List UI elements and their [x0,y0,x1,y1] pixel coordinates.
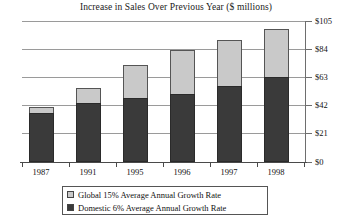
y-tick-mark-105 [305,21,312,22]
bar-series-container [22,21,305,162]
bar-segment-domestic-1987 [29,113,54,162]
x-tick-label-1991: 1991 [66,167,110,177]
legend-item-domestic[interactable]: Domestic 6% Average Annual Growth Rate [67,201,263,214]
x-tick-mark-6 [304,162,305,167]
bar-segment-domestic-1991 [76,103,101,162]
bar-segment-domestic-1998 [264,77,289,162]
y-tick-label-105: $105 [315,16,332,26]
sales-growth-bar-chart: Increase in Sales Over Previous Year ($ … [0,0,352,222]
bar-group-1997[interactable] [217,40,242,162]
bar-group-1991[interactable] [76,88,101,162]
x-tick-label-1995: 1995 [113,167,157,177]
dark-gray-swatch-icon [67,204,74,211]
y-tick-mark-21 [305,133,312,134]
bar-segment-global-1996 [170,50,195,94]
x-tick-label-1987: 1987 [19,167,63,177]
y-axis-line [305,21,306,163]
bar-group-1996[interactable] [170,50,195,162]
y-tick-label-84: $84 [315,44,328,54]
bar-segment-domestic-1995 [123,98,148,162]
y-tick-label-63: $63 [315,72,328,82]
legend-label-domestic: Domestic 6% Average Annual Growth Rate [78,203,226,213]
light-gray-swatch-icon [67,191,74,198]
y-tick-mark-63 [305,77,312,78]
legend-item-global[interactable]: Global 15% Average Annual Growth Rate [67,188,263,201]
y-tick-label-21: $21 [315,128,328,138]
chart-legend: Global 15% Average Annual Growth Rate Do… [62,186,268,215]
x-tick-label-1997: 1997 [207,167,251,177]
y-tick-label-0: $0 [315,157,324,167]
y-tick-mark-84 [305,49,312,50]
bar-segment-global-1997 [217,40,242,86]
y-tick-mark-42 [305,105,312,106]
bar-group-1987[interactable] [29,107,54,162]
bar-group-1998[interactable] [264,29,289,162]
bar-group-1995[interactable] [123,65,148,162]
bar-segment-global-1991 [76,88,101,103]
bar-segment-global-1998 [264,29,289,77]
x-tick-label-1996: 1996 [160,167,204,177]
bar-segment-global-1995 [123,65,148,98]
y-tick-label-42: $42 [315,100,328,110]
legend-label-global: Global 15% Average Annual Growth Rate [78,190,221,200]
x-tick-label-1998: 1998 [254,167,298,177]
chart-title: Increase in Sales Over Previous Year ($ … [0,2,352,12]
bar-segment-domestic-1997 [217,86,242,162]
bar-segment-domestic-1996 [170,94,195,162]
